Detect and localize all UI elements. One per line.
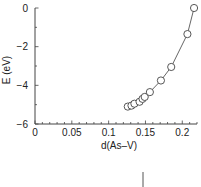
data-point xyxy=(146,89,153,96)
x-axis-title: d(As–V) xyxy=(101,140,137,151)
y-tick-label: −6 xyxy=(17,119,29,130)
series-line xyxy=(128,8,194,107)
y-tick-label: −4 xyxy=(17,80,29,91)
y-axis-title: E (eV) xyxy=(1,56,12,84)
data-point xyxy=(190,4,197,11)
chart: 00.050.10.150.2 0−2−4−6 d(As–V) E (eV) xyxy=(0,0,201,187)
x-tick-labels: 00.050.10.150.2 xyxy=(32,127,189,138)
x-tick-label: 0.15 xyxy=(136,127,156,138)
y-tick-labels: 0−2−4−6 xyxy=(17,3,29,130)
y-tick-label: −2 xyxy=(17,41,29,52)
x-tick-label: 0.05 xyxy=(62,127,82,138)
data-point xyxy=(168,63,175,70)
series-group xyxy=(124,4,197,110)
x-ticks xyxy=(35,121,197,125)
y-ticks xyxy=(35,8,39,124)
data-point xyxy=(157,77,164,84)
x-tick-label: 0.2 xyxy=(175,127,189,138)
data-point xyxy=(184,30,191,37)
x-tick-label: 0 xyxy=(32,127,38,138)
y-tick-label: 0 xyxy=(22,3,28,14)
x-tick-label: 0.1 xyxy=(102,127,116,138)
